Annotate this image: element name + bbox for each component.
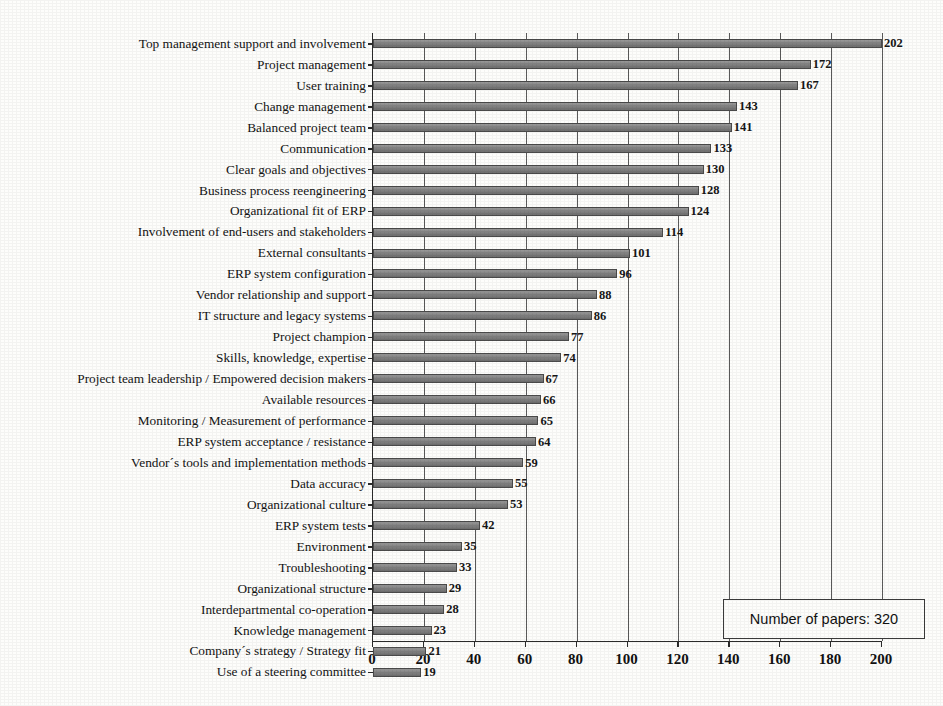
bar-value-label: 19 xyxy=(423,665,436,680)
category-label: Communication xyxy=(0,138,370,159)
bar: 114 xyxy=(373,228,663,237)
x-tick-label-180: 180 xyxy=(819,651,842,668)
category-label: Business process reengineering xyxy=(0,180,370,201)
bar-value-label: 167 xyxy=(800,78,819,93)
x-tick-180 xyxy=(830,641,831,647)
category-label: Balanced project team xyxy=(0,117,370,138)
x-tick-200 xyxy=(881,641,882,647)
bar-value-label: 23 xyxy=(434,623,447,638)
category-tick xyxy=(368,358,373,359)
category-label: ERP system acceptance / resistance xyxy=(0,431,370,452)
gridline-200 xyxy=(882,33,883,641)
bar-row: 35 xyxy=(373,536,882,557)
bar-row: 77 xyxy=(373,326,882,347)
bar-row: 55 xyxy=(373,473,882,494)
bar-row: 172 xyxy=(373,54,882,75)
bar-value-label: 86 xyxy=(594,308,607,323)
category-tick xyxy=(368,106,373,107)
category-label: Clear goals and objectives xyxy=(0,159,370,180)
plot-area: 2021721671431411331301281241141019688867… xyxy=(372,33,882,642)
bar-row: 88 xyxy=(373,284,882,305)
category-label: Project team leadership / Empowered deci… xyxy=(0,368,370,389)
category-tick xyxy=(368,546,373,547)
bar-chart: Top management support and involvementPr… xyxy=(0,0,943,706)
bar: 124 xyxy=(373,207,689,216)
category-tick xyxy=(368,504,373,505)
category-axis-labels: Top management support and involvementPr… xyxy=(0,33,370,641)
category-tick xyxy=(368,630,373,631)
bar-row: 33 xyxy=(373,557,882,578)
category-label: User training xyxy=(0,75,370,96)
bar-value-label: 128 xyxy=(701,183,720,198)
category-label: IT structure and legacy systems xyxy=(0,305,370,326)
x-tick-100 xyxy=(627,641,628,647)
category-label: Environment xyxy=(0,536,370,557)
bar-value-label: 64 xyxy=(538,434,551,449)
bar: 202 xyxy=(373,39,882,48)
bar-series: 2021721671431411331301281241141019688867… xyxy=(373,33,882,641)
bar-value-label: 172 xyxy=(813,57,832,72)
bar: 35 xyxy=(373,542,462,551)
category-tick xyxy=(368,211,373,212)
bar-value-label: 21 xyxy=(428,644,441,659)
category-tick xyxy=(368,609,373,610)
category-tick xyxy=(368,337,373,338)
category-tick xyxy=(368,64,373,65)
bar-value-label: 67 xyxy=(546,371,559,386)
category-label: Project champion xyxy=(0,326,370,347)
bar: 77 xyxy=(373,332,569,341)
category-tick xyxy=(368,463,373,464)
category-label: Available resources xyxy=(0,389,370,410)
x-tick-80 xyxy=(576,641,577,647)
bar-row: 53 xyxy=(373,494,882,515)
x-tick-160 xyxy=(779,641,780,647)
bar: 101 xyxy=(373,249,630,258)
category-label: Skills, knowledge, expertise xyxy=(0,347,370,368)
bar: 19 xyxy=(373,668,421,677)
category-label: Organizational culture xyxy=(0,494,370,515)
bar: 33 xyxy=(373,563,457,572)
x-tick-label-40: 40 xyxy=(466,651,481,668)
category-tick xyxy=(368,442,373,443)
bar-row: 128 xyxy=(373,180,882,201)
bar: 130 xyxy=(373,165,704,174)
bar-row: 202 xyxy=(373,33,882,54)
bar-value-label: 33 xyxy=(459,560,472,575)
bar-row: 96 xyxy=(373,263,882,284)
category-label: Vendor relationship and support xyxy=(0,284,370,305)
bar: 42 xyxy=(373,521,480,530)
x-tick-label-140: 140 xyxy=(717,651,740,668)
x-tick-label-200: 200 xyxy=(870,651,893,668)
x-tick-label-100: 100 xyxy=(615,651,638,668)
category-tick xyxy=(368,379,373,380)
bar: 88 xyxy=(373,290,597,299)
bar-value-label: 42 xyxy=(482,518,495,533)
bar-value-label: 55 xyxy=(515,476,528,491)
x-tick-60 xyxy=(525,641,526,647)
bar-row: 66 xyxy=(373,389,882,410)
bar-value-label: 141 xyxy=(734,120,753,135)
category-label: Use of a steering committee xyxy=(0,662,370,683)
bar-row: 59 xyxy=(373,452,882,473)
bar: 128 xyxy=(373,186,699,195)
bar-row: 42 xyxy=(373,515,882,536)
category-tick xyxy=(368,525,373,526)
category-tick xyxy=(368,190,373,191)
bar-row: 65 xyxy=(373,410,882,431)
category-tick xyxy=(368,295,373,296)
category-label: ERP system tests xyxy=(0,515,370,536)
bar-row: 67 xyxy=(373,368,882,389)
bar-value-label: 35 xyxy=(464,539,477,554)
category-tick xyxy=(368,483,373,484)
category-tick xyxy=(368,400,373,401)
bar-value-label: 124 xyxy=(691,204,710,219)
bar-value-label: 59 xyxy=(525,455,538,470)
bar-value-label: 143 xyxy=(739,99,758,114)
category-label: Company´s strategy / Strategy fit xyxy=(0,641,370,662)
bar: 96 xyxy=(373,269,617,278)
category-label: Monitoring / Measurement of performance xyxy=(0,410,370,431)
bar-value-label: 53 xyxy=(510,497,523,512)
category-tick xyxy=(368,169,373,170)
bar: 28 xyxy=(373,605,444,614)
category-tick xyxy=(368,588,373,589)
